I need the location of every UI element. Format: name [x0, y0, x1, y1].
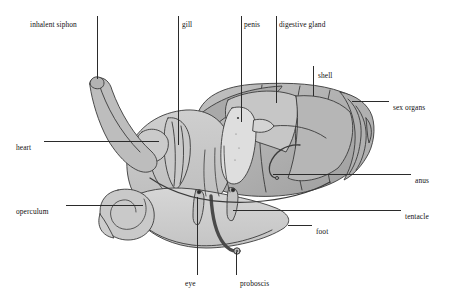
- label-gill: gill: [182, 21, 192, 28]
- label-anus: anus: [415, 177, 429, 184]
- penis-dot-2: [238, 147, 239, 148]
- label-inhalent-siphon: inhalent siphon: [30, 21, 77, 28]
- label-shell: shell: [318, 72, 332, 79]
- lead-tentacle: [233, 210, 401, 211]
- label-penis: penis: [244, 21, 260, 28]
- lead-inhalent-siphon: [97, 16, 98, 79]
- snail-anatomy-illustration: [0, 0, 450, 297]
- label-tentacle: tentacle: [405, 213, 429, 220]
- label-eye: eye: [185, 280, 196, 287]
- lead-operculum: [66, 205, 143, 206]
- label-operculum: operculum: [16, 208, 49, 215]
- label-digestive-gland: digestive gland: [279, 21, 325, 28]
- eye-right: [231, 188, 235, 192]
- penis-dot-3: [234, 159, 235, 160]
- penis-dot-1: [235, 133, 236, 134]
- penis-pore: [237, 117, 239, 119]
- anatomy-figure: inhalent siphon gill penis digestive gla…: [0, 0, 450, 297]
- lead-sex-organs: [352, 101, 389, 102]
- lead-foot: [288, 225, 312, 226]
- lead-anus: [273, 174, 411, 175]
- lead-penis: [241, 16, 242, 122]
- eye-left: [197, 190, 201, 194]
- label-heart: heart: [16, 144, 31, 151]
- lead-proboscis: [236, 252, 237, 275]
- lead-shell: [313, 66, 314, 96]
- label-sex-organs: sex organs: [393, 104, 425, 111]
- lead-digestive-gland: [276, 16, 277, 103]
- anus-opening: [275, 176, 278, 179]
- label-foot: foot: [316, 228, 328, 235]
- lead-eye: [197, 197, 198, 275]
- lead-heart: [44, 141, 159, 142]
- lead-gill: [178, 16, 179, 145]
- label-proboscis: proboscis: [240, 280, 269, 287]
